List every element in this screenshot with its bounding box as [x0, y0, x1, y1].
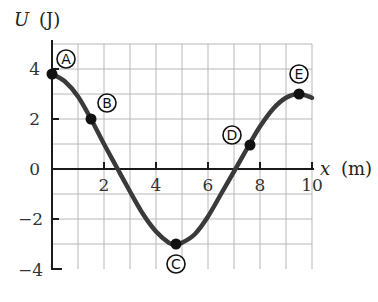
grid — [52, 44, 312, 269]
y-tick-label-minus-2: −2 — [18, 209, 43, 229]
labeled-points: A B C D E — [47, 50, 309, 273]
y-tick-label-2: 2 — [29, 109, 40, 129]
x-tick-label-8: 8 — [255, 175, 266, 195]
y-axis-variable: U — [14, 9, 30, 30]
point-a-label: A — [61, 51, 71, 67]
point-b-label: B — [102, 95, 112, 111]
x-tick-label-2: 2 — [99, 175, 110, 195]
x-tick-label-6: 6 — [203, 175, 214, 195]
point-e-label: E — [295, 66, 304, 82]
point-b-dot — [86, 114, 97, 125]
y-tick-label-minus-4: −4 — [18, 260, 43, 280]
potential-energy-chart: 2 4 6 8 10 4 2 0 −2 −4 U (J) x (m) A B C… — [0, 0, 378, 302]
point-d-dot — [245, 140, 256, 151]
y-tick-label-4: 4 — [29, 59, 40, 79]
y-tick-label-0: 0 — [29, 159, 40, 179]
point-c-label: C — [171, 256, 181, 272]
y-axis-label: U (J) — [14, 9, 60, 30]
point-a-dot — [47, 69, 58, 80]
x-axis-unit: (m) — [341, 158, 372, 179]
y-axis-unit: (J) — [39, 9, 60, 30]
point-c-dot — [171, 239, 182, 250]
x-axis-variable: x — [320, 158, 330, 179]
x-axis-label: x (m) — [320, 158, 372, 179]
x-tick-label-4: 4 — [151, 175, 162, 195]
point-d-label: D — [227, 127, 238, 143]
x-ticks — [104, 162, 312, 169]
point-e-dot — [294, 89, 305, 100]
